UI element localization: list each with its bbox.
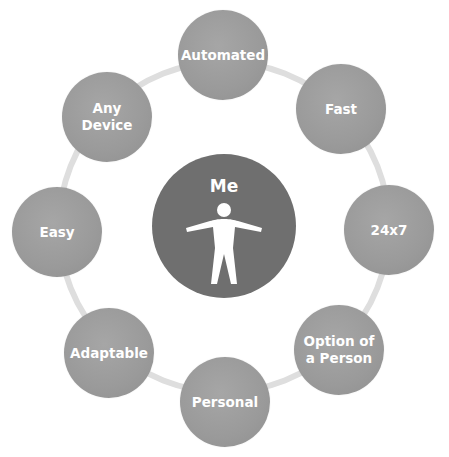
node-easy: Easy [12,187,102,277]
node-personal: Personal [180,357,270,447]
node-adaptable: Adaptable [64,308,154,398]
node-label: Automated [181,47,265,64]
node-label: Easy [39,224,74,241]
node-label: Fast [325,101,357,118]
node-automated: Automated [178,10,268,100]
node-any-device: Any Device [62,72,152,162]
center-node-me: Me [152,154,296,298]
node-label: Any Device [82,100,133,134]
node-fast: Fast [296,64,386,154]
center-label: Me [152,176,296,196]
node-24x7: 24x7 [344,185,434,275]
person-icon [184,202,264,286]
node-label: 24x7 [371,222,408,239]
node-label: Adaptable [70,345,148,362]
node-option-of-a-person: Option of a Person [294,305,384,395]
node-label: Personal [192,394,258,411]
node-label: Option of a Person [304,333,375,367]
